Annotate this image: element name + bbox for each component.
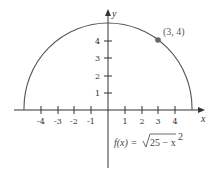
y-axis-label: y: [111, 8, 117, 19]
function-formula: f(x) = 25 − x 2: [114, 131, 183, 149]
svg-text:2: 2: [95, 72, 100, 81]
svg-text:-4: -4: [37, 117, 45, 126]
svg-text:f(x) =: f(x) =: [114, 137, 137, 149]
svg-text:2: 2: [178, 131, 183, 142]
x-axis-label: x: [200, 113, 206, 124]
svg-text:-3: -3: [54, 117, 62, 126]
svg-text:1: 1: [95, 89, 100, 98]
svg-text:3: 3: [155, 117, 160, 126]
point-label: (3, 4): [163, 26, 185, 38]
svg-text:2: 2: [139, 117, 144, 126]
svg-text:4: 4: [172, 117, 177, 126]
semicircle-chart: -4 -3 -2 -1 1 2 3 4 1 2 3 4 x y (3, 4) f…: [0, 0, 212, 169]
svg-text:3: 3: [95, 54, 100, 63]
svg-text:25 − x: 25 − x: [150, 137, 176, 148]
svg-text:1: 1: [122, 117, 127, 126]
y-axis-arrow-icon: [105, 9, 111, 16]
svg-text:-2: -2: [70, 117, 78, 126]
point-marker: [155, 37, 161, 43]
y-tick-labels: 1 2 3 4: [95, 37, 100, 98]
svg-text:-1: -1: [87, 117, 95, 126]
svg-text:4: 4: [95, 37, 100, 46]
x-tick-labels: -4 -3 -2 -1 1 2 3 4: [37, 117, 177, 126]
